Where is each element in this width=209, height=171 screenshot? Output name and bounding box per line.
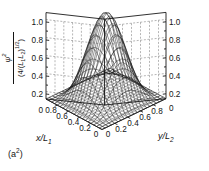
panel-caption: (a2) bbox=[8, 147, 23, 159]
psi-symbol: ψ bbox=[3, 57, 12, 63]
z-axis-label-denominator: (4/(L1L2)1/2) bbox=[15, 36, 27, 80]
z-tick-right-1: 0.8 bbox=[169, 36, 181, 45]
y-tick-1: 0.2 bbox=[115, 125, 127, 134]
panel-caption-text: (a bbox=[8, 149, 16, 159]
z-tick-right-4: 0.2 bbox=[169, 90, 181, 99]
panel-caption-close: ) bbox=[20, 149, 23, 159]
y-tick-4: 0.8 bbox=[151, 107, 163, 116]
figure-panel: 1.0 0.8 0.6 0.4 0.2 0 1.0 0.8 0.6 0.4 0.… bbox=[0, 0, 209, 171]
y-axis-label: y/L2 bbox=[158, 131, 174, 143]
x-tick-1: 0.6 bbox=[56, 112, 68, 121]
z-tick-left-5: 0 bbox=[38, 106, 43, 115]
y-tick-0: 0 bbox=[106, 130, 111, 139]
y-tick-2: 0.4 bbox=[127, 119, 139, 128]
x-axis-label: x/L1 bbox=[36, 133, 52, 145]
x-tick-2: 0.4 bbox=[68, 118, 80, 127]
z-tick-right-2: 0.6 bbox=[169, 54, 181, 63]
z-axis-label-numerator: ψ2 bbox=[1, 50, 12, 65]
z-tick-right-0: 1.0 bbox=[169, 18, 181, 27]
z-tick-right-5: 0 bbox=[169, 104, 174, 113]
z-axis-label: ψ2 (4/(L1L2)1/2) bbox=[0, 22, 42, 94]
z-axis-ticks-left bbox=[46, 22, 49, 94]
x-tick-3: 0.2 bbox=[79, 124, 91, 133]
y-tick-3: 0.6 bbox=[139, 113, 151, 122]
fraction-bar bbox=[13, 32, 14, 84]
z-axis-ticks-right bbox=[163, 22, 166, 94]
psi-exponent: 2 bbox=[1, 53, 7, 56]
z-tick-right-3: 0.4 bbox=[169, 72, 181, 81]
x-tick-4: 0 bbox=[94, 130, 99, 139]
